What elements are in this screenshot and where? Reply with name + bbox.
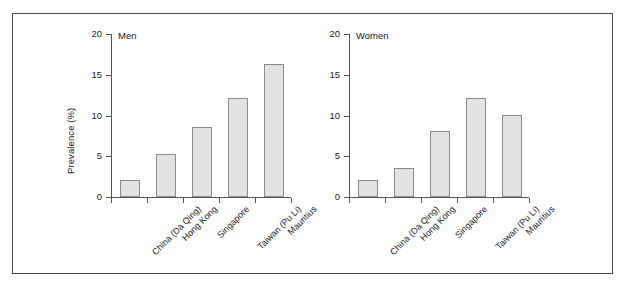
bar-men-taiwan [228, 98, 248, 197]
y-tick-label-5-men: 5 [82, 150, 102, 161]
y-tick-20-men [106, 34, 111, 35]
bar-women-china [358, 180, 378, 197]
x-tick-women-3 [457, 198, 458, 203]
y-tick-label-0-men: 0 [82, 191, 102, 202]
y-axis-line-women [349, 34, 350, 198]
x-tick-men-1 [147, 198, 148, 203]
x-tick-women-4 [493, 198, 494, 203]
figure-canvas: Prevalence (%) Men 0 5 10 15 20 [0, 0, 627, 290]
y-tick-15-women [344, 75, 349, 76]
x-tick-women-0 [349, 198, 350, 203]
y-tick-10-women [344, 116, 349, 117]
y-tick-label-10-women: 10 [320, 110, 340, 121]
bar-women-taiwan [466, 98, 486, 197]
bar-women-mauritius [502, 115, 522, 197]
y-tick-label-0-women: 0 [320, 191, 340, 202]
y-tick-label-15-women: 15 [320, 69, 340, 80]
panel-women: Women 0 5 10 15 20 China [313, 14, 613, 275]
x-tick-label-men-2: Singapore [215, 204, 251, 240]
panel-title-men: Men [118, 30, 136, 41]
bar-women-hong-kong [394, 168, 414, 197]
x-axis-line-women [349, 197, 529, 198]
x-tick-men-0 [111, 198, 112, 203]
panel-men: Prevalence (%) Men 0 5 10 15 20 [13, 14, 313, 275]
x-tick-men-4 [255, 198, 256, 203]
y-tick-10-men [106, 116, 111, 117]
x-axis-line-men [111, 197, 291, 198]
x-tick-men-2 [183, 198, 184, 203]
y-axis-label: Prevalence (%) [65, 108, 76, 174]
bar-women-singapore [430, 131, 450, 197]
x-tick-men-5 [291, 198, 292, 203]
bar-men-singapore [192, 127, 212, 197]
y-tick-label-5-women: 5 [320, 150, 340, 161]
y-tick-label-10-men: 10 [82, 110, 102, 121]
y-tick-label-20-women: 20 [320, 28, 340, 39]
x-tick-women-5 [529, 198, 530, 203]
y-tick-20-women [344, 34, 349, 35]
panel-title-women: Women [356, 30, 389, 41]
y-tick-5-women [344, 156, 349, 157]
y-tick-label-20-men: 20 [82, 28, 102, 39]
y-axis-line-men [111, 34, 112, 198]
figure-frame: Prevalence (%) Men 0 5 10 15 20 [12, 13, 613, 274]
y-tick-label-15-men: 15 [82, 69, 102, 80]
y-tick-15-men [106, 75, 111, 76]
x-tick-women-1 [385, 198, 386, 203]
bar-men-hong-kong [156, 154, 176, 197]
bar-men-mauritius [264, 64, 284, 197]
x-tick-men-3 [219, 198, 220, 203]
x-tick-women-2 [421, 198, 422, 203]
x-tick-label-women-2: Singapore [453, 204, 489, 240]
y-tick-5-men [106, 156, 111, 157]
bar-men-china [120, 180, 140, 197]
